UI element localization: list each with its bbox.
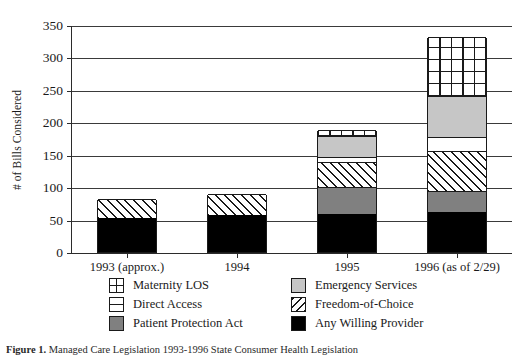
bar-segment-direct-access xyxy=(428,137,486,151)
bar-1995[interactable] xyxy=(317,131,377,253)
bar-segment-any-willing-provider xyxy=(98,218,156,252)
x-tick-label-3: 1996 (as of 2/29) xyxy=(414,260,500,275)
y-tick-mark-150 xyxy=(67,156,72,157)
legend-item-direct-access[interactable]: Direct Access xyxy=(109,297,202,312)
bar-segment-freedom-of-choice xyxy=(318,162,376,187)
y-tick-label-350: 350 xyxy=(43,19,63,33)
legend-item-patient-protection-act[interactable]: Patient Protection Act xyxy=(109,316,243,331)
y-tick-mark-100 xyxy=(67,188,72,189)
legend-label: Patient Protection Act xyxy=(133,317,243,330)
bar-segment-emergency-services xyxy=(428,96,486,137)
bar-segment-freedom-of-choice xyxy=(428,151,486,191)
y-tick-mark-300 xyxy=(67,58,72,59)
legend-item-emergency-services[interactable]: Emergency Services xyxy=(291,278,417,293)
x-tick-mark-0 xyxy=(127,253,128,258)
y-tick-label-0: 0 xyxy=(56,246,63,260)
cross-grid-swatch-icon xyxy=(109,278,124,293)
bar-1996-as-of-2-29-[interactable] xyxy=(427,38,487,253)
bar-segment-any-willing-provider xyxy=(208,215,266,252)
legend-item-any-willing-provider[interactable]: Any Willing Provider xyxy=(291,316,423,331)
x-tick-label-0: 1993 (approx.) xyxy=(90,260,164,275)
bar-1994[interactable] xyxy=(207,195,267,253)
bar-segment-direct-access xyxy=(318,157,376,162)
horizontal-line-swatch-icon xyxy=(109,297,124,312)
caption-text: Managed Care Legislation 1993-1996 State… xyxy=(49,344,358,355)
y-axis-label: # of Bills Considered xyxy=(11,89,23,189)
y-tick-mark-0 xyxy=(67,253,72,254)
legend-label: Emergency Services xyxy=(315,279,417,292)
y-tick-mark-350 xyxy=(67,26,72,27)
y-tick-label-150: 150 xyxy=(43,149,63,163)
x-tick-mark-3 xyxy=(457,253,458,258)
y-tick-label-50: 50 xyxy=(50,214,64,228)
legend-label: Direct Access xyxy=(133,298,202,311)
y-tick-mark-250 xyxy=(67,91,72,92)
legend-item-maternity-los[interactable]: Maternity LOS xyxy=(109,278,209,293)
gridline-350 xyxy=(72,26,512,27)
y-tick-mark-50 xyxy=(67,221,72,222)
figure-caption: Figure 1. Managed Care Legislation 1993-… xyxy=(6,344,520,355)
bar-segment-patient-protection-act xyxy=(428,191,486,212)
bar-segment-patient-protection-act xyxy=(318,187,376,214)
y-tick-label-200: 200 xyxy=(43,117,63,131)
legend-label: Freedom-of-Choice xyxy=(315,298,414,311)
caption-prefix: Figure 1. xyxy=(6,344,46,355)
dark-gray-swatch-icon xyxy=(109,316,124,331)
black-swatch-icon xyxy=(291,316,306,331)
x-tick-mark-2 xyxy=(347,253,348,258)
bar-1993-approx-[interactable] xyxy=(97,200,157,253)
bar-segment-freedom-of-choice xyxy=(208,194,266,215)
bar-segment-maternity-los xyxy=(428,37,486,96)
y-axis-label-container: # of Bills Considered xyxy=(8,26,26,253)
diagonal-hatch-swatch-icon xyxy=(291,297,306,312)
y-tick-label-300: 300 xyxy=(43,52,63,66)
chart-legend: Maternity LOSEmergency ServicesDirect Ac… xyxy=(71,278,511,336)
bar-segment-freedom-of-choice xyxy=(98,199,156,218)
bar-segment-any-willing-provider xyxy=(318,214,376,252)
legend-label: Maternity LOS xyxy=(133,279,209,292)
y-tick-label-250: 250 xyxy=(43,84,63,98)
y-tick-mark-200 xyxy=(67,123,72,124)
x-tick-label-1: 1994 xyxy=(225,260,250,275)
legend-label: Any Willing Provider xyxy=(315,317,423,330)
light-gray-swatch-icon xyxy=(291,278,306,293)
x-tick-label-2: 1995 xyxy=(335,260,360,275)
plot-area: 050100150200250300350 1993 (approx.)1994… xyxy=(71,26,512,254)
bar-segment-any-willing-provider xyxy=(428,212,486,252)
x-tick-mark-1 xyxy=(237,253,238,258)
bar-segment-maternity-los xyxy=(318,130,376,136)
legend-item-freedom-of-choice[interactable]: Freedom-of-Choice xyxy=(291,297,414,312)
bar-segment-emergency-services xyxy=(318,136,376,157)
y-tick-label-100: 100 xyxy=(43,181,63,195)
